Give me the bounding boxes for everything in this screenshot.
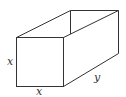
label-depth: y <box>93 71 101 84</box>
box-diagram: x x y <box>0 0 126 97</box>
top-face-edges <box>17 11 119 38</box>
back-edges <box>71 11 119 54</box>
side-face-edges <box>64 54 119 87</box>
label-front-width: x <box>36 85 43 97</box>
label-front-height: x <box>7 55 14 68</box>
front-face <box>17 38 64 87</box>
